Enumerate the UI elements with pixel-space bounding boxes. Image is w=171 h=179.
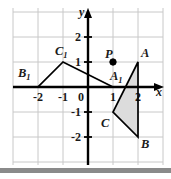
y-tick-label: 1	[75, 55, 81, 69]
y-axis-name: y	[77, 5, 85, 19]
y-tick-label: -2	[71, 130, 81, 144]
vertex-label-P: P	[105, 47, 113, 61]
x-tick-label: -1	[58, 90, 68, 104]
x-axis-name: x	[155, 85, 162, 99]
vertex-label-C: C	[101, 116, 110, 130]
x-tick-label: 1	[110, 90, 116, 104]
origin-label: 0	[78, 90, 84, 104]
x-tick-label: -2	[33, 90, 43, 104]
coordinate-plane-figure: -2-11221-1-20xyABCA1B1C1P	[0, 0, 171, 179]
y-tick-label: -1	[71, 105, 81, 119]
coordinate-plane-svg: -2-11221-1-20xyABCA1B1C1P	[0, 0, 171, 179]
bottom-page-edge	[0, 173, 171, 179]
vertex-label-B: B	[140, 137, 149, 151]
y-tick-label: 2	[75, 30, 81, 44]
vertex-label-A: A	[140, 46, 149, 60]
